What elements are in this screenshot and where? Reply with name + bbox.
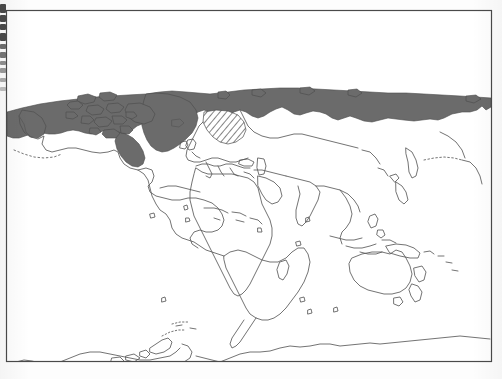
world-map-svg bbox=[0, 0, 502, 379]
map-frame bbox=[7, 11, 492, 362]
map-figure bbox=[0, 0, 502, 379]
